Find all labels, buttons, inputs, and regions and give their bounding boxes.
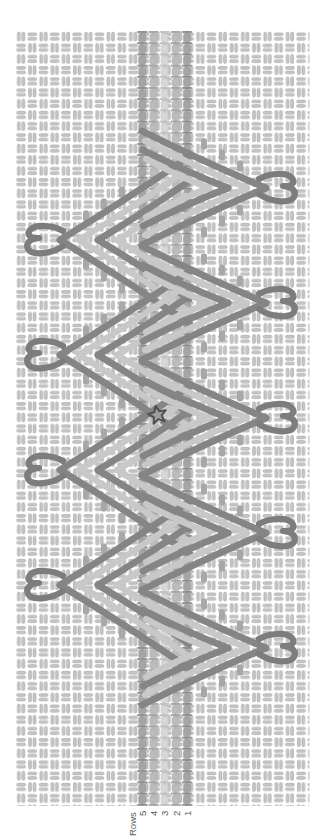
accent-stitch xyxy=(237,391,243,402)
row-number-3: 3 xyxy=(159,811,170,816)
accent-stitch xyxy=(219,495,225,506)
accent-stitch xyxy=(219,331,225,342)
row-number-2: 2 xyxy=(171,811,182,816)
accent-stitch xyxy=(201,457,207,468)
accent-stitch xyxy=(237,435,243,446)
accent-stitch xyxy=(237,665,243,676)
accent-stitch xyxy=(237,506,243,517)
accent-stitch xyxy=(219,676,225,687)
accent-stitch xyxy=(219,265,225,276)
accent-stitch xyxy=(219,216,225,227)
swatch-canvas: Rows 5 4 3 2 1 xyxy=(0,0,335,839)
accent-stitch xyxy=(201,342,207,353)
accent-stitch xyxy=(219,610,225,621)
row-number-4: 4 xyxy=(148,811,159,816)
accent-stitch xyxy=(201,254,207,265)
accent-stitch xyxy=(219,446,225,457)
accent-stitch xyxy=(201,227,207,238)
accent-stitch xyxy=(237,205,243,216)
knit-swatch-figure: Rows 5 4 3 2 1 xyxy=(0,0,335,839)
accent-stitch xyxy=(201,139,207,150)
accent-stitch xyxy=(201,687,207,698)
accent-stitch xyxy=(219,150,225,161)
row-number-5: 5 xyxy=(137,811,148,816)
row-number-1: 1 xyxy=(182,811,193,816)
accent-stitch xyxy=(237,320,243,331)
accent-stitch xyxy=(201,599,207,610)
accent-stitch xyxy=(237,161,243,172)
accent-stitch xyxy=(219,561,225,572)
accent-stitch xyxy=(219,380,225,391)
accent-stitch xyxy=(237,621,243,632)
accent-stitch xyxy=(201,572,207,583)
accent-stitch xyxy=(201,369,207,380)
accent-stitch xyxy=(237,276,243,287)
accent-stitch xyxy=(237,550,243,561)
accent-stitch xyxy=(201,484,207,495)
